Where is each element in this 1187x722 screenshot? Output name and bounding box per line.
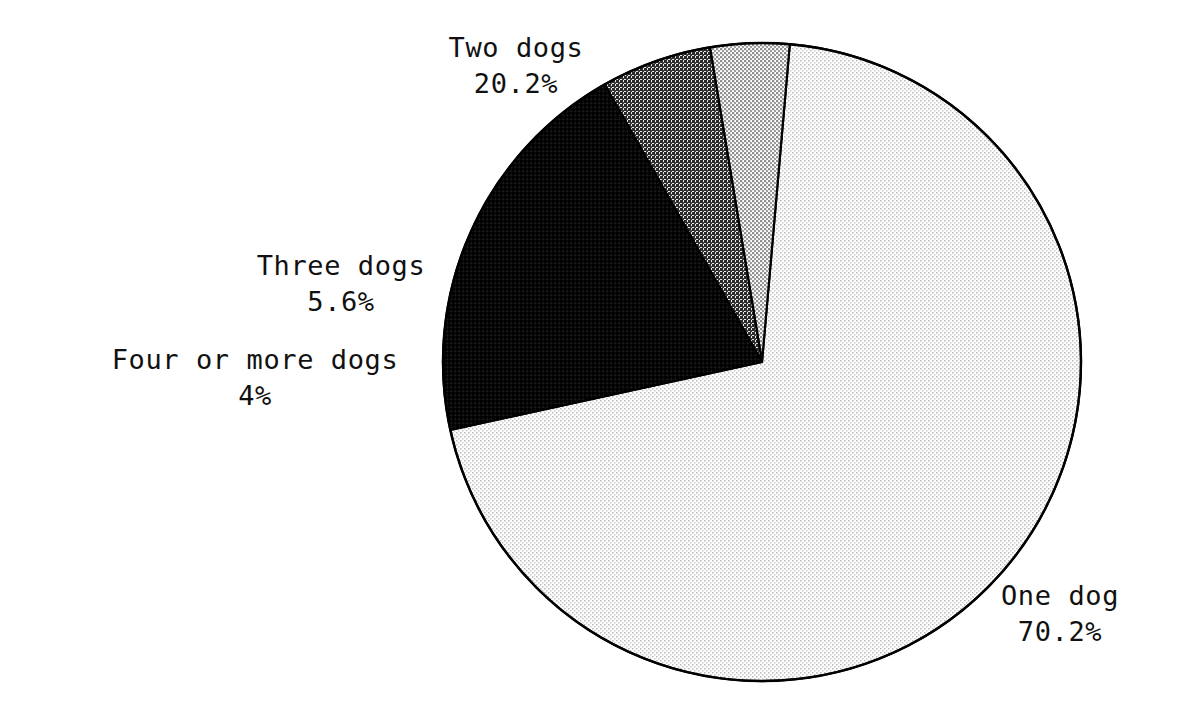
pie-label-three-dogs-name: Three dogs [215, 248, 467, 284]
pie-label-four-or-more-dogs-value: 4% [55, 378, 455, 414]
pie-label-four-or-more-dogs-name: Four or more dogs [55, 342, 455, 378]
pie-label-one-dog-name: One dog [960, 578, 1160, 614]
pie-label-four-or-more-dogs: Four or more dogs 4% [55, 342, 455, 413]
pie-label-three-dogs: Three dogs 5.6% [215, 248, 467, 319]
pie-label-one-dog-value: 70.2% [960, 614, 1160, 650]
pie-label-two-dogs-name: Two dogs [400, 30, 632, 66]
pie-label-one-dog: One dog 70.2% [960, 578, 1160, 649]
pie-label-two-dogs-value: 20.2% [400, 66, 632, 102]
pie-label-two-dogs: Two dogs 20.2% [400, 30, 632, 101]
pie-chart: Two dogs 20.2% Three dogs 5.6% Four or m… [0, 0, 1187, 722]
pie-label-three-dogs-value: 5.6% [215, 284, 467, 320]
